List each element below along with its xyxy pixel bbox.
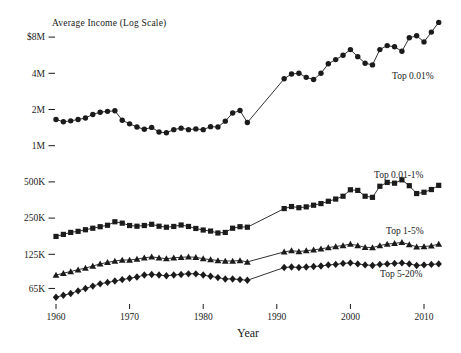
data-point-top-0-01	[75, 117, 80, 122]
data-point-top-5-20	[178, 271, 184, 278]
data-point-top-0-01-1	[193, 226, 198, 231]
data-point-top-0-01-1	[68, 230, 73, 235]
data-point-top-5-20	[156, 271, 162, 278]
data-point-top-0-01-1	[370, 195, 375, 200]
y-axis: $8M4M2M1M500K250K125K65K	[24, 32, 55, 293]
data-point-top-0-01-1	[98, 224, 103, 229]
data-point-top-0-01-1	[134, 224, 139, 229]
series-label-top-0-01-1: Top 0.01-1%	[374, 170, 424, 180]
data-point-top-0-01	[134, 124, 139, 129]
data-point-top-0-01	[289, 71, 294, 76]
x-axis-title: Year	[237, 326, 259, 340]
data-point-top-5-20	[200, 271, 206, 278]
data-point-top-0-01-1	[296, 205, 301, 210]
data-point-top-0-01	[68, 118, 73, 123]
y-tick-label: 65K	[29, 284, 46, 294]
data-point-top-5-20	[318, 262, 324, 269]
data-point-top-0-01-1	[392, 181, 397, 186]
y-tick-label: 2M	[32, 105, 46, 115]
data-point-top-0-01	[392, 44, 397, 49]
data-point-top-5-20	[104, 279, 110, 286]
data-point-top-0-01-1	[407, 183, 412, 188]
data-point-top-0-01	[414, 33, 419, 38]
data-point-top-0-01-1	[333, 196, 338, 201]
data-point-top-0-01	[120, 117, 125, 122]
data-point-top-5-20	[332, 261, 338, 268]
data-point-top-5-20	[229, 275, 235, 282]
data-point-top-5-20	[281, 264, 287, 271]
data-point-top-5-20	[215, 274, 221, 281]
data-point-top-0-01	[61, 119, 66, 124]
data-point-top-0-01	[201, 127, 206, 132]
data-point-top-5-20	[296, 264, 302, 271]
data-point-top-0-01	[186, 127, 191, 132]
data-point-top-0-01-1	[436, 183, 441, 188]
data-point-top-0-01	[142, 127, 147, 132]
data-point-top-5-20	[428, 261, 434, 268]
data-point-top-0-01-1	[377, 184, 382, 189]
data-point-top-5-20	[68, 290, 74, 297]
data-point-top-0-01	[90, 112, 95, 117]
data-point-top-5-20	[310, 263, 316, 270]
x-tick-label: 2010	[415, 312, 434, 322]
y-tick-label: 125K	[24, 250, 45, 260]
series-line-top-0-01	[56, 22, 439, 132]
data-point-top-0-01-1	[120, 221, 125, 226]
data-point-top-0-01-1	[83, 227, 88, 232]
data-point-top-1-5	[435, 241, 442, 247]
data-point-top-0-01-1	[326, 199, 331, 204]
data-point-top-0-01	[304, 75, 309, 80]
y-tick-label: 4M	[32, 69, 46, 79]
data-point-top-5-20	[148, 271, 154, 278]
data-point-top-5-20	[288, 263, 294, 270]
data-point-top-0-01	[156, 129, 161, 134]
data-point-top-0-01	[127, 121, 132, 126]
data-point-top-0-01-1	[355, 188, 360, 193]
data-point-top-0-01	[281, 76, 286, 81]
data-point-top-0-01	[385, 43, 390, 48]
data-point-top-0-01-1	[149, 222, 154, 227]
data-point-top-5-20	[244, 277, 250, 284]
y-tick-label: 250K	[24, 213, 45, 223]
data-point-top-0-01-1	[289, 204, 294, 209]
income-chart-figure: Average Income (Log Scale) $8M4M2M1M500K…	[0, 0, 461, 353]
series-label-top-5-20: Top 5-20%	[380, 269, 422, 279]
data-point-top-0-01	[318, 71, 323, 76]
income-line-chart: Average Income (Log Scale) $8M4M2M1M500K…	[0, 0, 461, 353]
data-point-top-1-5	[399, 239, 406, 245]
data-point-top-5-20	[436, 260, 442, 267]
data-point-top-0-01-1	[237, 224, 242, 229]
data-point-top-5-20	[391, 260, 397, 267]
data-point-top-0-01-1	[385, 180, 390, 185]
data-point-top-0-01	[97, 109, 102, 114]
data-point-top-0-01-1	[90, 226, 95, 231]
series-label-top-1-5: Top 1-5%	[386, 226, 424, 236]
data-point-top-0-01	[105, 109, 110, 114]
data-point-top-0-01-1	[208, 228, 213, 233]
data-point-top-0-01	[436, 20, 441, 25]
data-point-top-5-20	[112, 277, 118, 284]
data-point-top-5-20	[355, 260, 361, 267]
data-point-top-5-20	[126, 275, 132, 282]
x-tick-label: 1970	[120, 312, 139, 322]
x-tick-label: 1960	[47, 312, 66, 322]
data-point-top-0-01	[362, 61, 367, 66]
data-point-top-1-5	[185, 254, 192, 260]
data-point-top-0-01-1	[75, 229, 80, 234]
x-tick-label: 2000	[341, 312, 360, 322]
data-point-top-0-01-1	[223, 230, 228, 235]
data-point-top-5-20	[163, 272, 169, 279]
data-point-top-0-01	[164, 130, 169, 135]
data-point-top-0-01-1	[112, 219, 117, 224]
data-point-top-5-20	[222, 275, 228, 282]
data-point-top-5-20	[75, 287, 81, 294]
series-top-5-20: Top 5-20%	[53, 259, 442, 301]
data-point-top-5-20	[82, 285, 88, 292]
data-point-top-5-20	[362, 261, 368, 268]
x-tick-label: 1980	[194, 312, 213, 322]
data-point-top-5-20	[369, 262, 375, 269]
data-point-top-1-5	[347, 241, 354, 247]
data-point-top-5-20	[347, 259, 353, 266]
data-point-top-5-20	[237, 276, 243, 283]
y-tick-label: $8M	[27, 32, 46, 42]
